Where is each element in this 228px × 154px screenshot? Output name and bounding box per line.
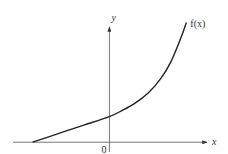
y-axis-label: y — [110, 12, 116, 23]
x-axis-label: x — [211, 136, 217, 147]
chart: x y 0 f(x) — [0, 0, 228, 154]
series-label-f: f(x) — [190, 18, 205, 30]
origin-label: 0 — [101, 144, 106, 154]
